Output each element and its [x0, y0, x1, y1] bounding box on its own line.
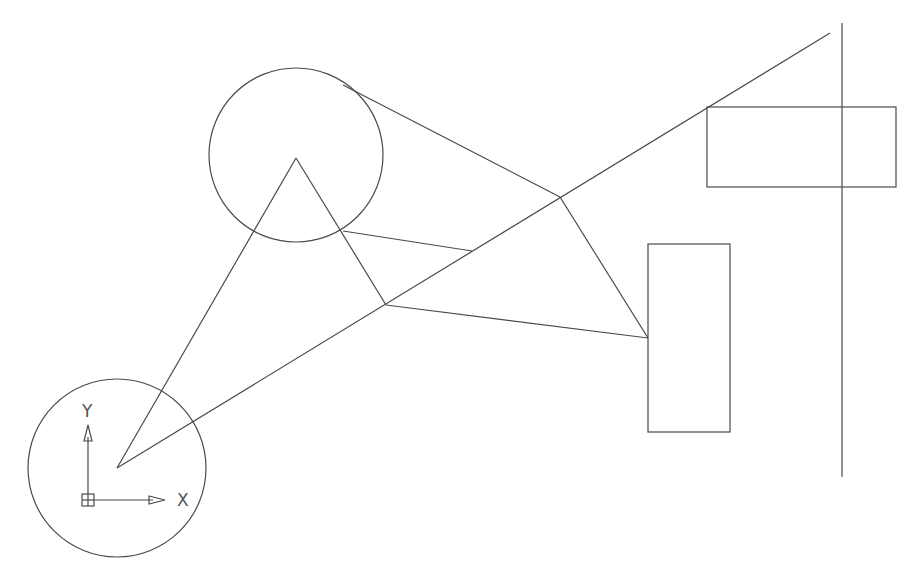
upper-circle[interactable] [209, 68, 383, 242]
y-axis-label: Y [81, 401, 93, 421]
ucs-axis-icon: X Y [81, 401, 189, 510]
chord-line[interactable] [343, 231, 472, 251]
x-axis-label: X [177, 490, 189, 510]
drawing-canvas[interactable]: X Y [0, 0, 920, 581]
right-edge-line[interactable] [560, 197, 648, 338]
middle-rectangle[interactable] [648, 244, 730, 432]
long-diagonal-line[interactable] [117, 33, 830, 468]
triangle-right-edge[interactable] [296, 158, 386, 305]
tangent-line[interactable] [343, 85, 560, 197]
lower-edge-line[interactable] [386, 305, 648, 338]
cad-drawing[interactable]: X Y [0, 0, 920, 581]
upper-right-rectangle[interactable] [707, 107, 896, 187]
triangle-left-edge[interactable] [117, 158, 296, 468]
